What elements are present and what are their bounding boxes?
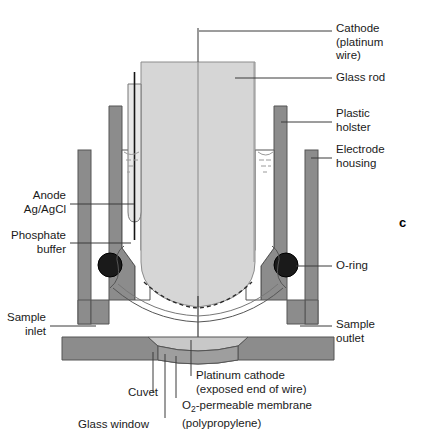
label-o-ring: O-ring xyxy=(336,259,368,273)
label-electrode-housing: Electrode housing xyxy=(336,143,385,170)
cuvet-block-left xyxy=(62,337,158,360)
figure-container: Cathode (platinum wire) Glass rod Plasti… xyxy=(0,0,423,448)
label-sample-outlet: Sample outlet xyxy=(336,318,375,345)
label-glass-window: Glass window xyxy=(78,418,149,432)
label-sample-inlet: Sample inlet xyxy=(0,311,46,338)
cuvet-block-right xyxy=(238,337,334,360)
label-phosphate-buffer: Phosphate buffer xyxy=(0,229,66,256)
label-anode: Anode Ag/AgCl xyxy=(0,189,66,216)
label-glass-rod: Glass rod xyxy=(336,71,385,85)
electrode-housing-right-foot xyxy=(305,300,318,324)
electrode-housing-left-foot xyxy=(78,300,91,324)
anode-group xyxy=(128,72,141,240)
label-cathode: Cathode (platinum wire) xyxy=(336,22,383,63)
glass-rod-group xyxy=(141,62,255,307)
label-cuvet: Cuvet xyxy=(128,386,158,400)
panel-letter-c: c xyxy=(399,215,406,230)
label-platinum-cathode: Platinum cathode (exposed end of wire) xyxy=(196,369,307,396)
label-plastic-holster: Plastic holster xyxy=(336,107,371,134)
o2-membrane-text-rest: -permeable membrane xyxy=(196,399,312,411)
electrode-housing-left-bar xyxy=(78,150,91,324)
electrode-housing-right-bar xyxy=(305,150,318,324)
label-o2-permeable-membrane: O2-permeable membrane(polypropylene) xyxy=(182,399,312,430)
o2-membrane-text-line2: (polypropylene) xyxy=(182,417,261,429)
cuvet-group xyxy=(62,337,334,364)
o2-membrane-text-o: O xyxy=(182,399,191,411)
